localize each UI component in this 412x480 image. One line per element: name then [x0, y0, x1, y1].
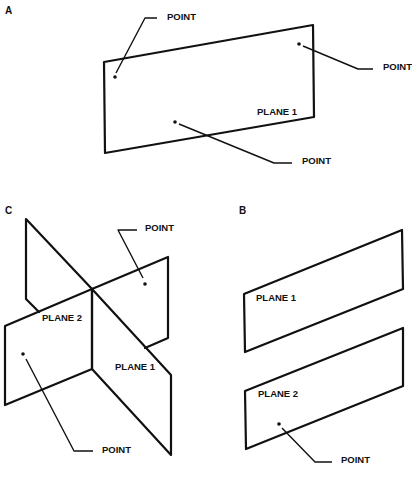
point-label: POINT [145, 222, 174, 233]
point-leader-line [282, 428, 332, 462]
plane-1-back-edge [26, 219, 92, 312]
plane-1-label: PLANE 1 [257, 106, 298, 117]
plane-2-label: PLANE 2 [42, 312, 82, 323]
point-label: POINT [302, 155, 331, 166]
panel-label-c: C [5, 205, 12, 216]
point-dot [21, 352, 25, 356]
panel-b: B PLANE 1 PLANE 2 POINT [239, 205, 403, 465]
panel-label-b: B [239, 205, 246, 216]
plane-1-label: PLANE 1 [256, 292, 297, 303]
point-label: POINT [383, 61, 412, 72]
point-dot [277, 422, 281, 426]
point-leader-line [116, 18, 157, 73]
point-dot [143, 282, 147, 286]
panel-a: A PLANE 1 POINT POINT POINT [5, 5, 412, 166]
plane-1-outline [104, 25, 314, 153]
point-dot [173, 120, 177, 124]
point-dot [297, 42, 301, 46]
point-leader-line [118, 230, 143, 278]
plane-2-label: PLANE 2 [258, 388, 298, 399]
plane-2-front-outline [5, 289, 92, 405]
point-label: POINT [167, 11, 196, 22]
panel-c: C PLANE 2 PLANE 1 POINT POINT [5, 205, 174, 455]
point-dot [113, 75, 117, 79]
point-label: POINT [102, 444, 131, 455]
plane-1-outline [244, 230, 403, 352]
geometry-figure: A PLANE 1 POINT POINT POINT C PLANE 2 PL… [0, 0, 412, 480]
panel-label-a: A [5, 5, 12, 16]
point-label: POINT [341, 454, 370, 465]
plane-1-label: PLANE 1 [115, 361, 156, 372]
plane-1-front-edge [92, 289, 171, 455]
